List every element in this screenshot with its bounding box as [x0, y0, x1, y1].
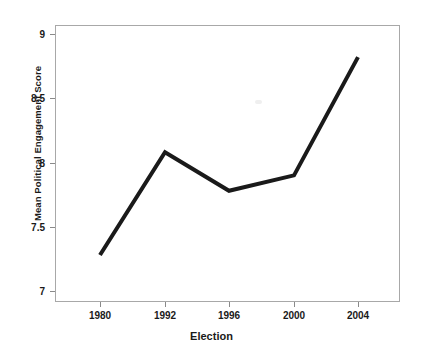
data-line-series [100, 57, 358, 255]
line-chart-figure: Mean Political Engagement Score 77.588.5… [0, 0, 423, 355]
data-series-svg [0, 0, 423, 355]
